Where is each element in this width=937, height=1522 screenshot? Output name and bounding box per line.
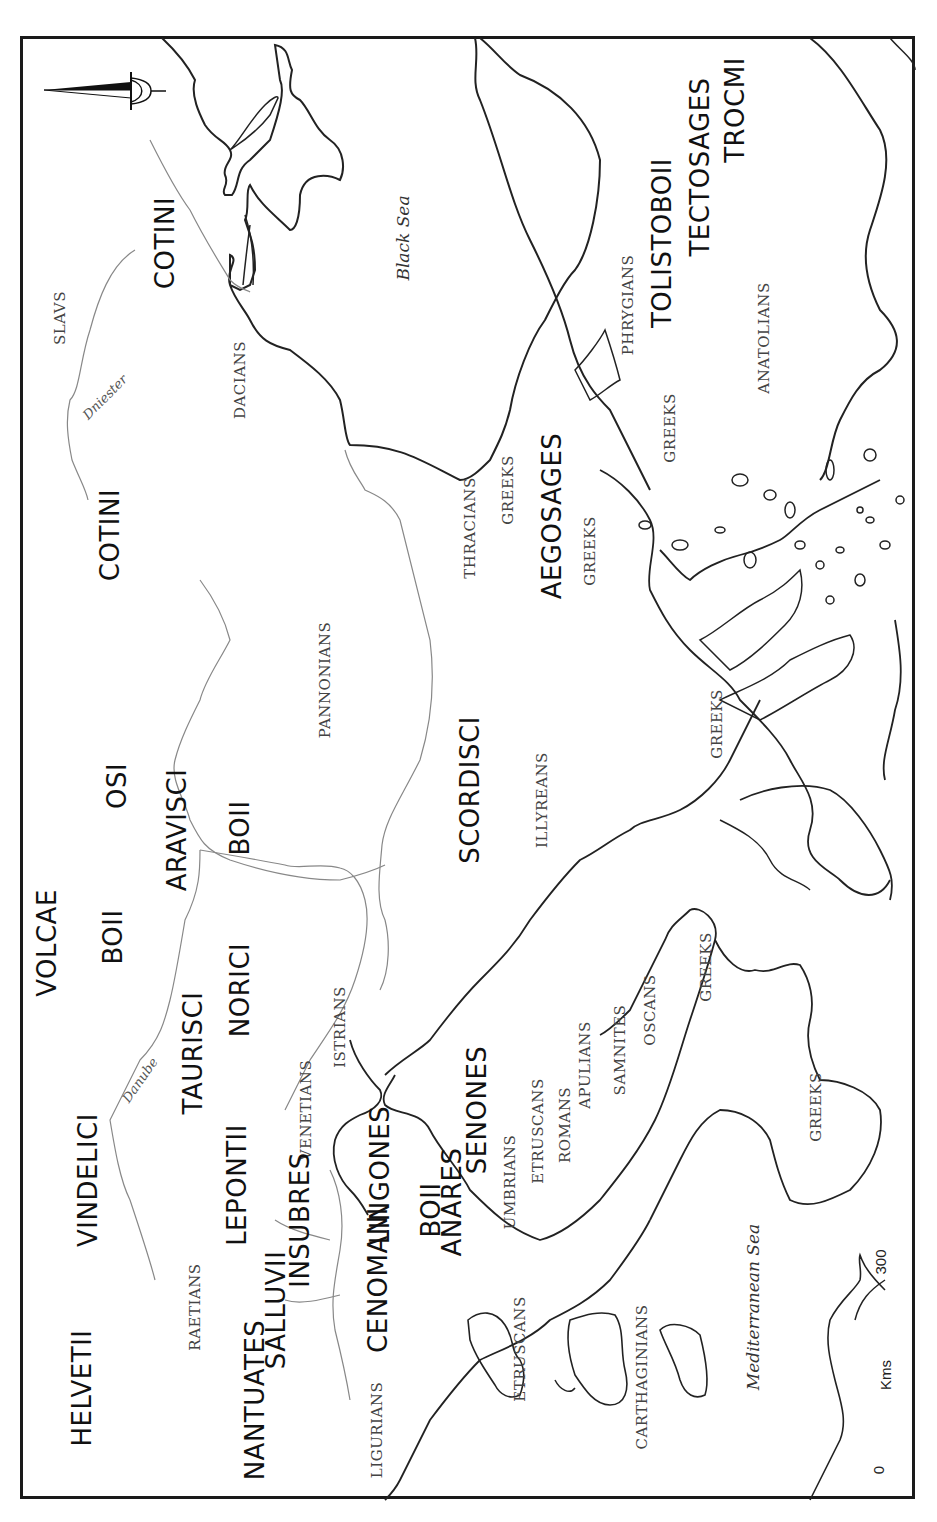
coastline-sicily [660, 1325, 707, 1397]
label-norici: NORICI [227, 943, 253, 1037]
coastline-black-sea-north [162, 38, 600, 480]
label-tolistoboii: TOLISTOBOII [649, 158, 675, 328]
coastline-sardinia [568, 1313, 627, 1405]
label-umbrians: UMBRIANS [503, 1135, 518, 1229]
label-trocmi: TROCMI [722, 57, 748, 163]
river-po-tributary-2 [285, 1295, 340, 1302]
scale-label-zero: 0 [871, 1466, 886, 1474]
label-cotini-north: COTINI [152, 197, 178, 289]
label-etruscans-corsica: ETRUSCANS [513, 1296, 528, 1401]
label-vindelici: VINDELICI [75, 1113, 101, 1247]
label-thracians: THRACIANS [463, 477, 478, 578]
label-slavs: SLAVS [53, 291, 68, 345]
label-greeks-greece: GREEKS [710, 689, 725, 759]
label-greeks-aegean: GREEKS [583, 516, 598, 586]
scale-label-max: 300 [873, 1249, 888, 1274]
label-cenomani: CENOMANI [365, 1207, 391, 1353]
label-taurisci: TAURISCI [180, 992, 206, 1115]
coastline-north-africa [810, 1255, 885, 1500]
coastline-greece-west [385, 700, 760, 1075]
label-apulians: APULIANS [578, 1021, 593, 1108]
coastline-anatolia-north [810, 38, 897, 480]
label-cotini-south: COTINI [97, 489, 123, 581]
label-volcae: VOLCAE [34, 889, 60, 997]
label-aegosages: AEGOSAGES [539, 433, 565, 600]
label-boii-bohemia: BOII [100, 909, 126, 964]
label-pannonians: PANNONIANS [318, 622, 333, 738]
label-phrygians: PHRYGIANS [621, 255, 636, 356]
label-black-sea: Black Sea [395, 195, 412, 280]
label-etruscans-italy: ETRUSCANS [531, 1078, 546, 1183]
label-carthaginians: CARTHAGINIANS [635, 1305, 650, 1450]
label-osi: OSI [104, 763, 130, 809]
label-oscans: OSCANS [643, 974, 658, 1045]
coastline-crimea [230, 97, 278, 150]
label-illyreans: ILLYREANS [535, 752, 550, 848]
coastline-italy-south [650, 940, 881, 1220]
label-boii-pannonia: BOII [227, 800, 253, 855]
label-samnites: SAMNITES [613, 1005, 628, 1096]
label-aravisci: ARAVISCI [164, 769, 190, 892]
label-istrians: ISTRIANS [333, 986, 348, 1068]
label-greeks-thrace: GREEKS [501, 455, 516, 525]
label-greeks-italy-south: GREEKS [809, 1072, 824, 1142]
label-tectosages: TECTOSAGES [687, 77, 713, 256]
river-po [330, 1170, 350, 1400]
label-scordisci: SCORDISCI [457, 716, 483, 864]
label-venetians: VENETIANS [299, 1060, 314, 1161]
river-dniester [67, 250, 135, 500]
label-ligurians: LIGURIANS [370, 1382, 385, 1478]
label-helvetii: HELVETII [69, 1329, 95, 1446]
label-dacians: DACIANS [233, 341, 248, 419]
label-mediterranean-sea: Mediterranean Sea [745, 1224, 762, 1390]
coastline-crete [884, 620, 901, 780]
label-salluvii: SALLUVII [263, 1251, 289, 1370]
label-greeks-italy-north: GREEKS [699, 932, 714, 1002]
label-greeks-asia: GREEKS [663, 393, 678, 463]
label-raetians: RAETIANS [188, 1263, 203, 1350]
label-anatolians: ANATOLIANS [757, 282, 772, 393]
label-lepontii: LEPONTII [224, 1124, 250, 1246]
label-senones: SENONES [464, 1046, 490, 1175]
river-danube-lower [345, 450, 432, 990]
label-romans: ROMANS [558, 1087, 573, 1163]
scale-label-unit: Kms [878, 1360, 893, 1390]
north-arrow-icon [44, 72, 166, 110]
border-pannonia [174, 580, 385, 880]
coastline-aegean [600, 470, 890, 895]
label-anares: ANARES [439, 1147, 465, 1256]
